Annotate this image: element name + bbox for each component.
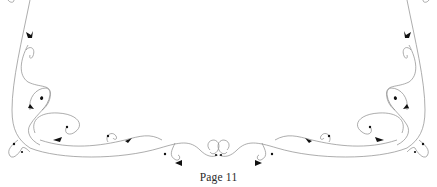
floral-border-ornament bbox=[0, 0, 437, 187]
page-number: Page 11 bbox=[0, 171, 437, 183]
right-vine-ornament bbox=[218, 0, 429, 166]
left-vine-ornament bbox=[8, 0, 219, 166]
document-page: Page 11 bbox=[0, 0, 437, 187]
